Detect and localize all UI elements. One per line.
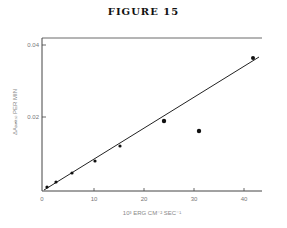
data-point	[162, 119, 166, 123]
x-tick-label: 40	[241, 196, 248, 202]
y-ticks: 0.04 0.02	[27, 42, 46, 120]
data-point	[45, 185, 48, 188]
data-point	[118, 144, 121, 147]
y-tick-label: 0.04	[27, 42, 39, 48]
y-tick-label: 0.02	[27, 114, 39, 120]
data-point	[54, 180, 57, 183]
x-tick-label: 10	[91, 196, 98, 202]
scatter-plot: 0.04 0.02 0 10 20 30 40 10³ ERG CM⁻² SEC…	[0, 0, 287, 228]
data-points	[45, 56, 255, 189]
data-point	[70, 171, 73, 174]
fit-line	[44, 57, 259, 190]
data-point	[197, 129, 201, 133]
x-tick-label: 20	[141, 196, 148, 202]
data-point	[93, 159, 96, 162]
y-axis-label: ΔA₍ᵤₙᵢₜₛ₎ PER MIN	[12, 89, 18, 135]
x-tick-label: 30	[191, 196, 198, 202]
x-ticks: 0 10 20 30 40	[40, 188, 248, 202]
data-point	[251, 56, 255, 60]
x-tick-label: 0	[40, 196, 44, 202]
x-axis-label: 10³ ERG CM⁻² SEC⁻¹	[123, 210, 181, 216]
